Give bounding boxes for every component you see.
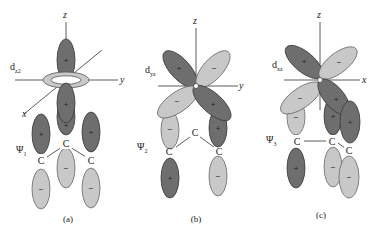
sign: − (337, 58, 342, 67)
sign: + (89, 128, 94, 137)
sign: − (294, 113, 299, 122)
sign: + (64, 121, 69, 130)
sign: + (39, 130, 44, 139)
atom-c: C (346, 145, 353, 156)
orbital-label: dyz (145, 64, 156, 77)
caption-a: (a) (63, 214, 73, 224)
x-axis-label: x (361, 74, 367, 85)
sign: + (334, 95, 339, 104)
y-axis-label: y (238, 80, 244, 91)
sign: − (347, 173, 352, 182)
z-axis-label: z (192, 15, 197, 26)
atom-c: C (38, 155, 45, 166)
sign: − (298, 94, 303, 103)
panel-a: z y x + + + + − + − − C C C (10, 9, 125, 224)
sign: + (211, 100, 216, 109)
atom-c: C (63, 138, 70, 149)
atom-c: C (294, 136, 301, 147)
nucleus (318, 78, 323, 83)
atom-c: C (216, 146, 223, 157)
sign: + (294, 164, 299, 173)
sign: + (331, 112, 336, 121)
sign: − (89, 184, 94, 193)
sign: + (302, 57, 307, 66)
mo-label: Ψ1 (16, 144, 26, 157)
sign: + (168, 174, 173, 183)
nucleus (194, 84, 199, 89)
sign: − (39, 185, 44, 194)
sign: + (216, 124, 221, 133)
x-axis-label: x (21, 108, 27, 119)
mo-label: Ψ2 (137, 141, 147, 154)
sign: − (331, 163, 336, 172)
z-axis-label: z (62, 9, 67, 20)
sign: − (216, 172, 221, 181)
sign: + (177, 64, 182, 73)
y-axis-label: y (119, 74, 125, 85)
atom-c: C (88, 155, 95, 166)
sign: − (64, 164, 69, 173)
z-axis-label: z (316, 9, 321, 20)
atom-c: C (192, 127, 199, 138)
caption-c: (c) (316, 210, 326, 220)
sign: − (212, 64, 217, 73)
caption-b: (b) (191, 214, 202, 224)
bond (338, 143, 345, 148)
sign: + (348, 118, 353, 127)
orbital-label: dz2 (10, 61, 21, 74)
mo-label: Ψ3 (266, 134, 276, 147)
sign: − (168, 125, 173, 134)
orbital-label: dxz (272, 59, 283, 72)
sign: + (64, 100, 69, 109)
orbital-diagram: z y x + + + + − + − − C C C (0, 0, 378, 234)
atom-c: C (166, 146, 173, 157)
atom-c: C (329, 136, 336, 147)
sign: + (64, 56, 69, 65)
panel-c: z x − + + − − + + + − − C C C (266, 9, 367, 220)
panel-b: z y − + + − − + + − C C C dyz Ψ2 (b) (137, 15, 244, 224)
sign: − (175, 97, 180, 106)
